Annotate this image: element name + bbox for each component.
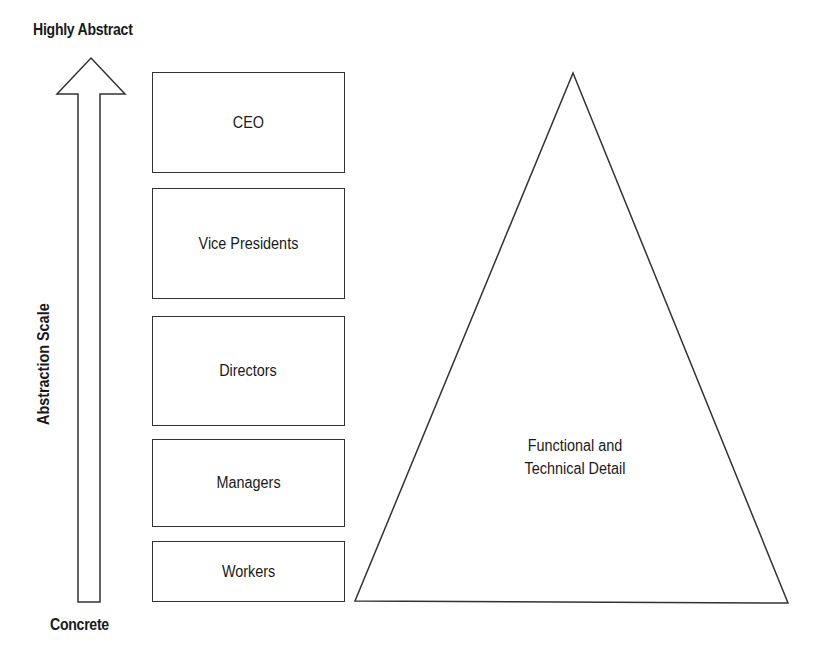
- concrete-label: Concrete: [50, 616, 109, 634]
- diagram-shapes: [0, 0, 819, 661]
- level-label: Directors: [220, 362, 278, 380]
- pyramid-label: Functional and Technical Detail: [481, 434, 670, 480]
- level-box-ceo: CEO: [152, 72, 345, 173]
- level-label: Workers: [222, 563, 275, 581]
- level-label: CEO: [233, 114, 264, 132]
- highly-abstract-label: Highly Abstract: [33, 21, 133, 39]
- level-box-workers: Workers: [152, 541, 345, 602]
- level-box-vice-presidents: Vice Presidents: [152, 188, 345, 299]
- pyramid-label-line2: Technical Detail: [481, 457, 670, 480]
- level-box-managers: Managers: [152, 439, 345, 527]
- detail-pyramid: [355, 73, 788, 603]
- level-box-directors: Directors: [152, 316, 345, 426]
- abstraction-arrow-icon: [57, 58, 125, 602]
- abstraction-scale-label: Abstraction Scale: [35, 303, 53, 425]
- level-label: Vice Presidents: [199, 235, 299, 253]
- pyramid-label-line1: Functional and: [481, 434, 670, 457]
- level-label: Managers: [216, 474, 280, 492]
